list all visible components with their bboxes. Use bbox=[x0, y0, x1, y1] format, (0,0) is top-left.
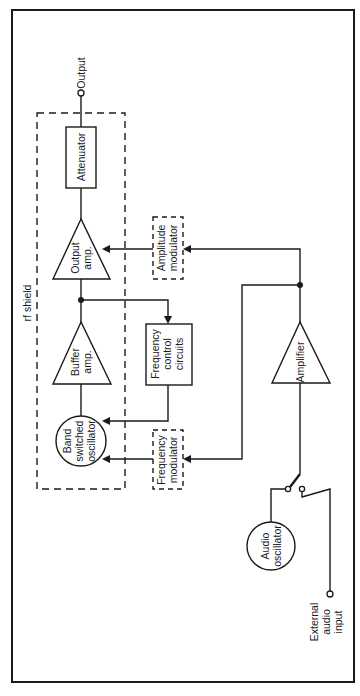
audio-oscillator-block: Audio oscillator bbox=[247, 522, 295, 570]
external-audio-input-label: External audio input bbox=[308, 603, 344, 642]
amplifier-block: Amplifier bbox=[272, 322, 330, 383]
ext-label-2: audio bbox=[320, 609, 332, 635]
buffer-amp-block: Buffer amp. bbox=[53, 322, 111, 384]
freqctrl-label-1: Frequency bbox=[149, 328, 161, 378]
junction-amplifier bbox=[297, 282, 303, 288]
amplifier-label: Amplifier bbox=[294, 341, 306, 382]
external-input-terminal bbox=[327, 591, 333, 597]
input-selector-switch bbox=[285, 383, 304, 492]
buffer-amp-label-2: amp. bbox=[81, 350, 93, 373]
wire-freqcontrol-osc bbox=[106, 385, 168, 421]
rf-shield-label: rf shield bbox=[21, 284, 33, 321]
output-amp-label-2: amp. bbox=[81, 246, 93, 269]
freqctrl-label-2: control bbox=[161, 338, 173, 370]
ampmod-label-1: Amplitude bbox=[155, 225, 167, 272]
wire-amplifier-ampmod bbox=[187, 249, 300, 285]
audioosc-label-2: oscillator bbox=[271, 525, 283, 567]
arrow-into-outputamp-icon bbox=[102, 245, 110, 253]
arrow-into-osc-bottom-icon bbox=[102, 455, 110, 463]
band-switched-oscillator-block: Band switched oscillator bbox=[56, 416, 106, 466]
arrow-into-freqcontrol-icon bbox=[164, 316, 172, 324]
output-terminal bbox=[78, 90, 84, 96]
ext-label-1: External bbox=[308, 603, 320, 642]
arrow-into-freqmod-icon bbox=[183, 455, 191, 463]
freqmod-label-1: Frequency bbox=[155, 434, 167, 484]
frequency-control-block: Frequency control circuits bbox=[146, 324, 192, 385]
arrow-into-osc-top-icon bbox=[102, 417, 110, 425]
amplitude-modulator-block: Amplitude modulator bbox=[153, 217, 183, 279]
wire-switch-external bbox=[302, 489, 330, 591]
frequency-modulator-block: Frequency modulator bbox=[153, 430, 183, 489]
audioosc-label-1: Audio bbox=[259, 532, 271, 559]
freqmod-label-2: modulator bbox=[167, 436, 179, 483]
output-label: Output bbox=[75, 57, 87, 89]
output-amp-label-1: Output bbox=[69, 242, 81, 274]
osc-label-1: Band bbox=[61, 429, 73, 454]
attenuator-block: Attenuator bbox=[66, 127, 96, 188]
osc-label-3: oscillator bbox=[85, 420, 97, 462]
buffer-amp-label-1: Buffer bbox=[69, 348, 81, 376]
ext-label-3: input bbox=[332, 611, 344, 634]
rf-signal-generator-diagram: rf shield Output Attenuator Output amp. … bbox=[0, 0, 360, 696]
arrow-into-ampmod-icon bbox=[183, 245, 191, 253]
output-amp-block: Output amp. bbox=[53, 219, 110, 279]
freqctrl-label-3: circuits bbox=[173, 338, 185, 371]
attenuator-label: Attenuator bbox=[75, 132, 87, 181]
ampmod-label-2: modulator bbox=[167, 224, 179, 271]
osc-label-2: switched bbox=[73, 420, 85, 461]
wire-switch-audioosc bbox=[271, 489, 285, 522]
